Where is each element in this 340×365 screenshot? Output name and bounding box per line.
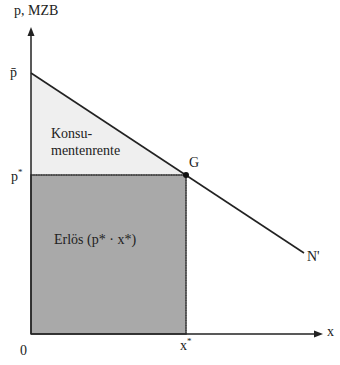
y-axis-arrow-icon — [28, 27, 35, 36]
x-star-text: x — [180, 338, 187, 353]
demand-curve-label: N' — [307, 250, 320, 264]
y-axis-label: p, MZB — [14, 4, 58, 18]
origin-label: 0 — [20, 344, 27, 358]
x-star-sup: * — [187, 336, 192, 346]
equilibrium-label: G — [189, 156, 199, 170]
p-star-label: p* — [11, 170, 23, 184]
x-axis-label: x — [327, 325, 334, 339]
p-star-text: p — [11, 169, 18, 184]
revenue-area — [31, 175, 186, 334]
x-star-label: x* — [180, 339, 192, 353]
revenue-label: Erlös (p* · x*) — [54, 233, 136, 247]
consumer-surplus-label-2: mentenrente — [51, 144, 120, 158]
diagram-canvas — [0, 0, 340, 365]
p-star-sup: * — [18, 167, 23, 177]
p-bar-label: p̄ — [10, 66, 17, 80]
x-axis-arrow-icon — [314, 331, 323, 338]
equilibrium-point — [183, 172, 189, 178]
consumer-surplus-label-1: Konsu- — [51, 127, 92, 141]
